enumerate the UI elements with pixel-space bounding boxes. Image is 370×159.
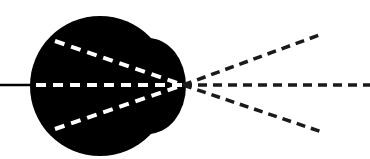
- ray-diagram: [0, 0, 370, 159]
